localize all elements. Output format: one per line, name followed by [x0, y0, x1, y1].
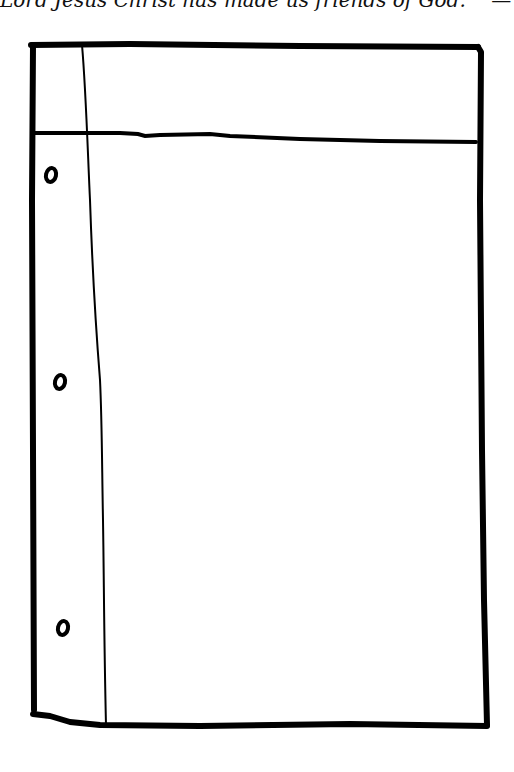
binder-holes	[45, 167, 70, 636]
binder-hole-bottom	[57, 620, 70, 636]
binder-hole-middle	[54, 374, 67, 390]
margin-line	[82, 45, 106, 725]
header-line	[35, 133, 476, 142]
notebook-page	[0, 0, 514, 772]
binder-hole-top	[45, 167, 58, 183]
